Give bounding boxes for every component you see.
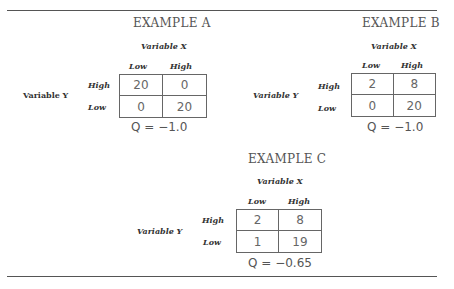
example-c-row-high: High — [202, 215, 224, 225]
example-b-variable-x-label: Variable X — [371, 41, 417, 51]
example-c-variable-x-label: Variable X — [257, 176, 303, 186]
example-c-cell-high-low: 2 — [237, 210, 279, 231]
example-c-row-low: Low — [203, 237, 221, 247]
example-c-cell-low-low: 1 — [237, 231, 279, 252]
example-a-variable-y-label: Variable Y — [23, 90, 68, 100]
example-a-col-low: Low — [129, 61, 147, 71]
example-c-variable-y-label: Variable Y — [137, 226, 182, 236]
example-a-cell-low-low: 0 — [120, 96, 163, 117]
example-a-title: EXAMPLE A — [133, 16, 211, 30]
example-a-row-high: High — [88, 80, 110, 90]
example-b-col-low: Low — [362, 60, 380, 70]
example-b-table: 2 8 0 20 — [351, 73, 436, 117]
example-b-row-high: High — [318, 81, 340, 91]
example-b-cell-low-high: 20 — [394, 95, 436, 116]
example-b-variable-y-label: Variable Y — [253, 90, 298, 100]
example-b-cell-low-low: 0 — [352, 95, 394, 116]
example-a-cell-low-high: 20 — [163, 96, 206, 117]
example-a-q-value: Q = −1.0 — [131, 120, 187, 134]
example-b-q-value: Q = −1.0 — [367, 120, 423, 134]
top-rule — [7, 10, 437, 11]
example-a-table: 20 0 0 20 — [119, 74, 207, 118]
example-b-row-low: Low — [318, 103, 336, 113]
example-c-table: 2 8 1 19 — [236, 209, 322, 253]
example-a-variable-x-label: Variable X — [141, 41, 187, 51]
example-c-cell-low-high: 19 — [279, 231, 321, 252]
example-b-title: EXAMPLE B — [362, 16, 440, 30]
example-a-cell-high-low: 20 — [120, 75, 163, 96]
example-b-cell-high-low: 2 — [352, 74, 394, 95]
example-c-q-value: Q = −0.65 — [248, 256, 312, 270]
example-c-col-low: Low — [248, 196, 266, 206]
example-c-title: EXAMPLE C — [248, 152, 326, 166]
example-a-cell-high-high: 0 — [163, 75, 206, 96]
example-a-col-high: High — [170, 61, 192, 71]
example-c-col-high: High — [288, 196, 310, 206]
bottom-rule — [7, 276, 437, 277]
example-b-cell-high-high: 8 — [394, 74, 436, 95]
example-c-cell-high-high: 8 — [279, 210, 321, 231]
example-b-col-high: High — [401, 60, 423, 70]
example-a-row-low: Low — [88, 102, 106, 112]
